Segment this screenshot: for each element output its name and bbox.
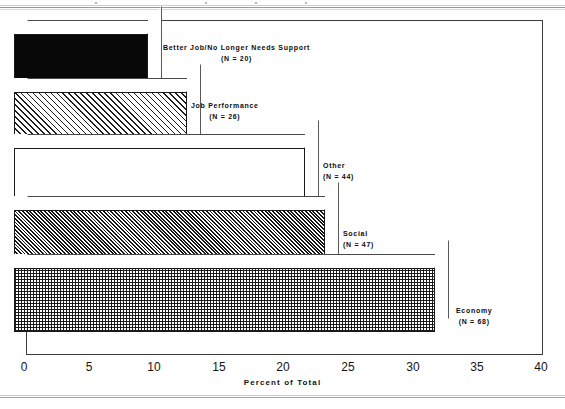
bar-label-social: Social (N = 47) xyxy=(343,228,374,250)
bar-label-text: Social xyxy=(343,230,368,237)
bar-label-count: (N = 47) xyxy=(343,239,374,250)
x-tick-5: 5 xyxy=(86,360,93,374)
x-tick-15: 15 xyxy=(212,360,225,374)
bar-front-face xyxy=(14,268,435,332)
bar-label-better-job: Better Job/No Longer Needs Support (N = … xyxy=(163,42,310,64)
bar-label-text: Other xyxy=(323,162,345,169)
bar-top-face xyxy=(14,196,325,210)
bar-side-face xyxy=(435,254,449,332)
bar-label-text: Better Job/No Longer Needs Support xyxy=(163,44,310,51)
x-tick-0: 0 xyxy=(21,360,28,374)
bar-chart: Better Job/No Longer Needs Support (N = … xyxy=(0,0,565,409)
bar-label-count: (N = 68) xyxy=(456,316,492,327)
bar-top-face xyxy=(14,254,435,268)
x-tick-35: 35 xyxy=(470,360,483,374)
bar-label-text: Job Performance xyxy=(191,102,259,109)
scan-artifact-line xyxy=(0,395,565,396)
bar-label-other: Other (N = 44) xyxy=(323,160,354,182)
x-tick-20: 20 xyxy=(276,360,289,374)
x-tick-40: 40 xyxy=(534,360,547,374)
bar-label-count: (N = 26) xyxy=(191,111,259,122)
x-axis: 0 5 10 15 20 25 30 35 40 xyxy=(0,360,565,378)
bar-label-text: Economy xyxy=(456,307,492,314)
bar-top-face xyxy=(14,78,187,92)
bar-label-job-performance: Job Performance (N = 26) xyxy=(191,100,259,122)
bar-top-face xyxy=(14,20,148,34)
scan-artifact-line xyxy=(0,397,565,398)
x-axis-label: Percent of Total xyxy=(0,378,565,387)
x-tick-30: 30 xyxy=(406,360,419,374)
x-tick-25: 25 xyxy=(341,360,354,374)
x-tick-10: 10 xyxy=(147,360,160,374)
bars-layer: Better Job/No Longer Needs Support (N = … xyxy=(0,0,565,409)
bar-economy xyxy=(14,268,435,332)
bar-label-count: (N = 44) xyxy=(323,171,354,182)
bar-top-face xyxy=(14,134,305,148)
bar-label-count: (N = 20) xyxy=(163,53,310,64)
bar-label-economy: Economy (N = 68) xyxy=(456,305,492,327)
